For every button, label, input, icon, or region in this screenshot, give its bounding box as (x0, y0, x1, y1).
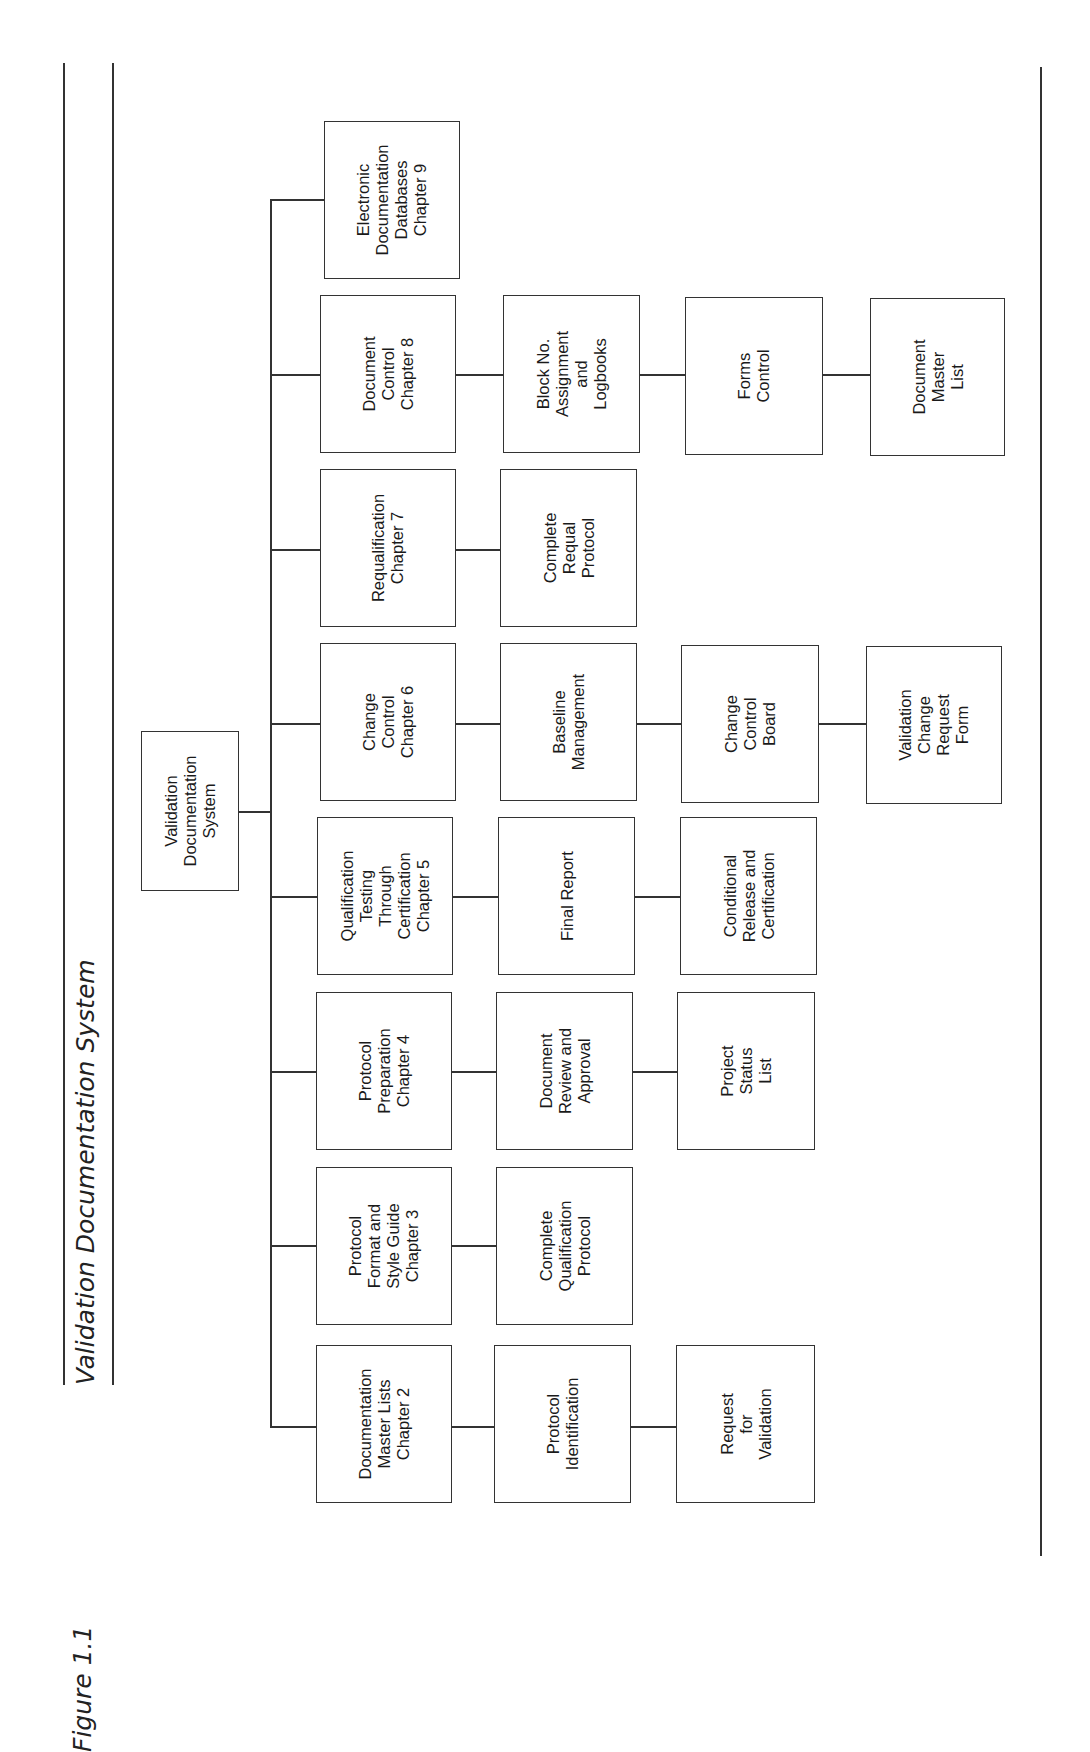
branch-connector (270, 1426, 316, 1428)
child-connector (452, 1071, 496, 1073)
left-inner-rule (112, 63, 114, 1385)
figure-label: Figure 1.1 (68, 1626, 97, 1752)
branch-connector (270, 549, 320, 551)
box-label: Conditional Release and Certification (720, 850, 777, 943)
child-connector (456, 723, 500, 725)
chapter-node: Qualification Testing Through Certificat… (317, 817, 453, 975)
chapter-node: Documentation Master Lists Chapter 2 (316, 1345, 452, 1503)
left-outer-rule (63, 63, 65, 1385)
box-label: Change Control Chapter 6 (360, 686, 417, 758)
sub-node: Project Status List (677, 992, 815, 1150)
box-label: Qualification Testing Through Certificat… (338, 851, 433, 942)
sub-node: Forms Control (685, 297, 823, 455)
box-label: Final Report (557, 851, 576, 941)
box-label: Change Control Board (722, 695, 779, 753)
trunk-line (270, 199, 272, 1426)
child-connector (631, 1426, 676, 1428)
sub-node: Complete Requal Protocol (500, 469, 637, 627)
box-label: Document Master List (909, 339, 966, 414)
child-connector (452, 1245, 496, 1247)
sub-node: Complete Qualification Protocol (496, 1167, 633, 1325)
child-connector (823, 374, 870, 376)
box-label: Complete Requal Protocol (540, 513, 597, 584)
sub-node: Document Review and Approval (496, 992, 633, 1150)
chapter-node: Requalification Chapter 7 (320, 469, 456, 627)
chapter-node: Change Control Chapter 6 (320, 643, 456, 801)
branch-connector (270, 1245, 316, 1247)
box-label: Document Review and Approval (536, 1028, 593, 1114)
box-label: Validation Change Request Form (896, 689, 972, 760)
box-label: Request for Validation (717, 1388, 774, 1459)
box-label: Electronic Documentation Databases Chapt… (354, 145, 430, 256)
child-connector (452, 1426, 494, 1428)
child-connector (637, 723, 681, 725)
child-connector (640, 374, 685, 376)
chapter-node: Protocol Format and Style Guide Chapter … (316, 1167, 452, 1325)
chapter-node: Document Control Chapter 8 (320, 295, 456, 453)
branch-connector (270, 723, 320, 725)
box-label: Protocol Format and Style Guide Chapter … (346, 1203, 422, 1288)
sub-node: Final Report (498, 817, 635, 975)
right-rule (1040, 67, 1042, 1556)
box-label: Protocol Preparation Chapter 4 (356, 1028, 413, 1113)
child-connector (456, 549, 500, 551)
box-label: Document Control Chapter 8 (360, 336, 417, 411)
box-label: Validation Documentation System (162, 756, 219, 867)
sub-node: Validation Change Request Form (866, 646, 1002, 804)
chapter-node: Electronic Documentation Databases Chapt… (324, 121, 460, 279)
child-connector (819, 723, 866, 725)
box-label: Protocol Identification (544, 1378, 582, 1471)
branch-connector (270, 896, 317, 898)
sub-node: Conditional Release and Certification (680, 817, 817, 975)
box-label: Complete Qualification Protocol (536, 1201, 593, 1292)
sub-node: Change Control Board (681, 645, 819, 803)
sub-node: Block No. Assignment and Logbooks (503, 295, 640, 453)
branch-connector (270, 374, 320, 376)
sub-node: Request for Validation (676, 1345, 815, 1503)
sub-node: Protocol Identification (494, 1345, 631, 1503)
root-connector (239, 811, 270, 813)
box-label: Forms Control (735, 349, 773, 402)
sub-node: Document Master List (870, 298, 1005, 456)
child-connector (456, 374, 503, 376)
child-connector (633, 1071, 677, 1073)
branch-connector (270, 199, 324, 201)
box-label: Project Status List (718, 1045, 775, 1096)
sub-node: Baseline Management (500, 643, 637, 801)
box-label: Block No. Assignment and Logbooks (534, 331, 610, 417)
box-label: Baseline Management (550, 674, 588, 770)
branch-connector (270, 1071, 316, 1073)
box-label: Documentation Master Lists Chapter 2 (356, 1369, 413, 1480)
chapter-node: Protocol Preparation Chapter 4 (316, 992, 452, 1150)
figure-title: Validation Documentation System (71, 959, 100, 1385)
box-label: Requalification Chapter 7 (369, 494, 407, 602)
root-node-validation-documentation-system: Validation Documentation System (141, 731, 239, 891)
child-connector (453, 896, 498, 898)
child-connector (635, 896, 680, 898)
